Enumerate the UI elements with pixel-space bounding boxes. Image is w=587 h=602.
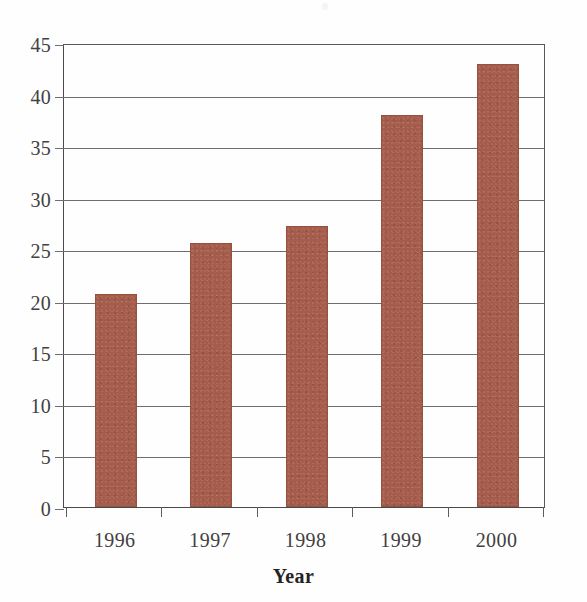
x-axis-title: Year [0,565,587,588]
y-axis-tick-25 [55,251,64,252]
scan-artifact-speck [322,3,328,10]
gridline-y-30 [64,200,544,201]
plot-area: 051015202530354045 [63,44,545,508]
y-axis-tick-40 [55,97,64,98]
bar-2000 [477,64,519,507]
x-axis-tick-3 [352,507,353,517]
y-axis-tick-30 [55,200,64,201]
x-axis-label-1996: 1996 [94,530,136,550]
y-axis-tick-20 [55,303,64,304]
x-axis-label-1997: 1997 [189,530,231,550]
y-axis-tick-15 [55,354,64,355]
bar-1999 [381,115,423,507]
bar-1998 [286,226,328,507]
x-axis-tick-5 [543,507,544,517]
x-axis-tick-1 [161,507,162,517]
x-axis-tick-4 [448,507,449,517]
bar-1997 [190,243,232,507]
y-axis-tick-45 [55,45,64,46]
y-axis-label-35: 35 [30,138,51,158]
y-axis-label-0: 0 [41,499,51,519]
y-axis-label-40: 40 [30,86,51,106]
x-axis-tick-0 [66,507,67,517]
y-axis-tick-0 [55,509,64,510]
y-axis-label-20: 20 [30,292,51,312]
bar-chart-figure: 051015202530354045 Year 1996199719981999… [0,0,587,602]
x-axis-tick-2 [257,507,258,517]
y-axis-label-5: 5 [41,447,51,467]
y-axis-label-10: 10 [30,395,51,415]
gridline-y-35 [64,148,544,149]
y-axis-tick-5 [55,457,64,458]
x-axis-label-2000: 2000 [476,530,518,550]
y-axis-label-30: 30 [30,189,51,209]
y-axis-tick-10 [55,406,64,407]
bar-1996 [95,294,137,507]
x-axis-label-1999: 1999 [380,530,422,550]
y-axis-label-15: 15 [30,344,51,364]
y-axis-tick-35 [55,148,64,149]
y-axis-label-45: 45 [30,35,51,55]
x-axis-label-1998: 1998 [285,530,327,550]
gridline-y-40 [64,97,544,98]
y-axis-label-25: 25 [30,241,51,261]
